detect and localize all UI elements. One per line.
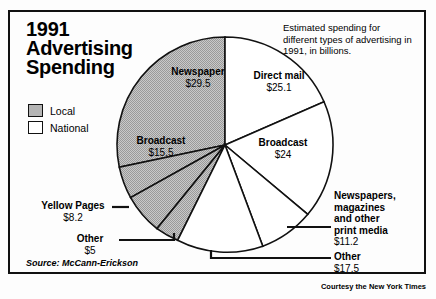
pie-label-broadcast-national-value: $24 — [275, 149, 292, 160]
callout-other-national-value: $17.5 — [334, 263, 359, 274]
callout-yellow-pages: Yellow Pages $8.2 — [34, 200, 112, 223]
pie-label-newspaper: Newspaper $29.5 — [152, 66, 244, 89]
callout-yellow-pages-name: Yellow Pages — [41, 200, 104, 211]
chart-figure: 1991 Advertising Spending Local National… — [0, 0, 436, 299]
pie-label-direct-mail-value: $25.1 — [266, 82, 291, 93]
callout-print-media-line-1: Newspapers, — [334, 190, 396, 201]
callout-print-media-value: $11.2 — [334, 236, 358, 247]
pie-label-broadcast-national: Broadcast $24 — [246, 137, 320, 160]
pie-label-broadcast-local-name: Broadcast — [137, 135, 186, 146]
pie-label-broadcast-local: Broadcast $15.5 — [124, 135, 198, 158]
callout-print-media-line-3: and other — [334, 213, 380, 224]
callout-yellow-pages-value: $8.2 — [63, 212, 82, 223]
callout-print-media-line-2: magazines — [334, 202, 385, 213]
pie-label-newspaper-value: $29.5 — [185, 78, 210, 89]
callout-other-local: Other $5 — [62, 233, 118, 256]
callout-print-media-line-4: print media — [334, 225, 388, 236]
pie-label-broadcast-national-name: Broadcast — [259, 137, 308, 148]
callout-other-national: Other $17.5 — [334, 251, 420, 274]
pie-label-direct-mail: Direct mail $25.1 — [236, 70, 322, 93]
callout-print-media: Newspapers, magazines and other print me… — [334, 190, 430, 248]
pie-label-newspaper-name: Newspaper — [171, 66, 224, 77]
callout-other-national-name: Other — [334, 251, 361, 262]
credit-note: Courtesy the New York Times — [321, 282, 426, 291]
pie-label-broadcast-local-value: $15.5 — [148, 147, 173, 158]
callout-other-local-value: $5 — [84, 245, 95, 256]
callout-other-local-name: Other — [77, 233, 104, 244]
source-note: Source: McCann-Erickson — [26, 258, 138, 268]
pie-label-direct-mail-name: Direct mail — [253, 70, 304, 81]
